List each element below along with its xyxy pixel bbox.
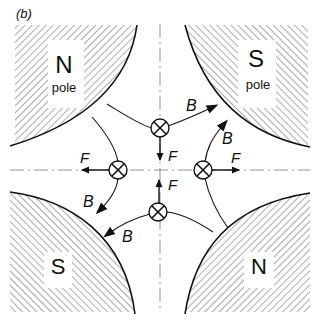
force-arrows	[82, 137, 239, 204]
quadrupole-diagram: (b) N pole S pole S N	[0, 0, 318, 322]
force-label-bottom: F	[168, 176, 178, 193]
field-label-bottom: B	[122, 228, 133, 245]
conductor-right	[194, 161, 212, 179]
pole-bottom-right	[185, 193, 310, 314]
pole-top-right-letter: S	[248, 45, 264, 72]
pole-bottom-left-letter: S	[51, 254, 66, 279]
conductor-top	[151, 119, 169, 137]
pole-top-left-sub: pole	[52, 80, 77, 95]
conductor-bottom	[149, 203, 167, 221]
field-label-top: B	[186, 97, 197, 114]
force-label-left: F	[80, 149, 90, 166]
force-label-top: F	[168, 147, 178, 164]
pole-top-left-letter: N	[55, 51, 72, 78]
field-label-left: B	[83, 193, 94, 210]
pole-bottom-left	[10, 192, 135, 314]
pole-bottom-right-letter: N	[251, 254, 267, 279]
conductor-left	[109, 161, 127, 179]
field-label-right: B	[222, 130, 233, 147]
panel-label: (b)	[16, 6, 32, 21]
pole-top-right-sub: pole	[246, 77, 271, 92]
force-label-right: F	[231, 149, 241, 166]
